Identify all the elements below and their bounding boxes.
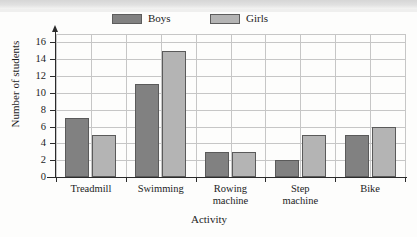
y-axis-tick-label: 16 <box>28 37 46 47</box>
bar-boys-treadmill <box>65 118 89 177</box>
x-axis-tick <box>196 177 197 182</box>
y-axis-tick-label-text: 10 <box>30 88 46 98</box>
x-axis-category-label: Rowingmachine <box>191 183 271 207</box>
y-axis-tick-label-text: 8 <box>30 105 46 115</box>
gridline-vertical <box>56 34 57 177</box>
gridline-vertical <box>405 34 406 177</box>
bar-girls-step-machine <box>302 135 326 177</box>
y-axis-tick-label: 10 <box>28 88 46 98</box>
bar-boys-bike <box>345 135 369 177</box>
x-axis-category-label: Swimming <box>121 183 201 195</box>
bar-boys-step-machine <box>275 160 299 177</box>
y-axis-tick-label-text: 16 <box>30 37 46 47</box>
x-axis-category-label-line: machine <box>191 195 271 207</box>
y-axis-tick-label-text: 4 <box>30 138 46 148</box>
y-axis-tick <box>50 110 56 111</box>
bar-girls-bike <box>372 127 396 177</box>
gridline-vertical <box>196 34 197 177</box>
y-axis-arrow-icon <box>52 25 58 32</box>
y-axis-line <box>55 30 56 178</box>
gridline-vertical <box>265 34 266 177</box>
scanned-page-background: Boys Girls 0246810121416 TreadmillSwimmi… <box>0 0 417 237</box>
y-axis-tick-label-text: 6 <box>30 122 46 132</box>
x-axis-category-label-line: Bike <box>330 183 410 195</box>
y-axis-title: Number of students <box>9 29 21 139</box>
y-axis-tick-label: 12 <box>28 71 46 81</box>
bar-girls-swimming <box>162 51 186 177</box>
bar-boys-swimming <box>135 84 159 177</box>
gridline-vertical <box>126 34 127 177</box>
y-axis-tick <box>50 42 56 43</box>
y-axis-tick-label-text: 0 <box>30 172 46 182</box>
y-axis-tick-label-text: 2 <box>30 155 46 165</box>
y-axis-tick <box>50 143 56 144</box>
x-axis-line <box>47 177 407 178</box>
y-axis-tick-label: 14 <box>28 54 46 64</box>
y-axis-tick-label: 6 <box>28 122 46 132</box>
y-axis-tick <box>50 76 56 77</box>
bar-girls-rowing-machine <box>232 152 256 177</box>
x-axis-category-label: Bike <box>330 183 410 195</box>
y-axis-tick-label: 2 <box>28 155 46 165</box>
x-axis-tick <box>335 177 336 182</box>
y-axis-tick-label-text: 12 <box>30 71 46 81</box>
x-axis-category-label-line: machine <box>260 195 340 207</box>
gridline-vertical <box>370 34 371 177</box>
x-axis-tick <box>405 177 406 182</box>
x-axis-category-label-line: Step <box>260 183 340 195</box>
plot-area <box>56 34 405 177</box>
bar-chart: 0246810121416 TreadmillSwimmingRowingmac… <box>0 0 417 237</box>
bar-boys-rowing-machine <box>205 152 229 177</box>
y-axis-tick-label: 4 <box>28 138 46 148</box>
y-axis-tick-label: 0 <box>28 172 46 182</box>
y-axis-tick <box>50 59 56 60</box>
y-axis-tick <box>50 127 56 128</box>
y-axis-tick-label: 8 <box>28 105 46 115</box>
x-axis-category-label: Stepmachine <box>260 183 340 207</box>
x-axis-tick <box>126 177 127 182</box>
x-axis-tick <box>56 177 57 182</box>
y-axis-tick-label-text: 14 <box>30 54 46 64</box>
gridline-vertical <box>335 34 336 177</box>
y-axis-tick <box>50 160 56 161</box>
gridline-vertical <box>300 34 301 177</box>
x-axis-tick <box>265 177 266 182</box>
x-axis-category-label-line: Rowing <box>191 183 271 195</box>
x-axis-category-label-line: Treadmill <box>51 183 131 195</box>
bar-girls-treadmill <box>92 135 116 177</box>
x-axis-category-label: Treadmill <box>51 183 131 195</box>
x-axis-category-label-line: Swimming <box>121 183 201 195</box>
x-axis-title: Activity <box>169 213 249 225</box>
y-axis-tick <box>50 93 56 94</box>
